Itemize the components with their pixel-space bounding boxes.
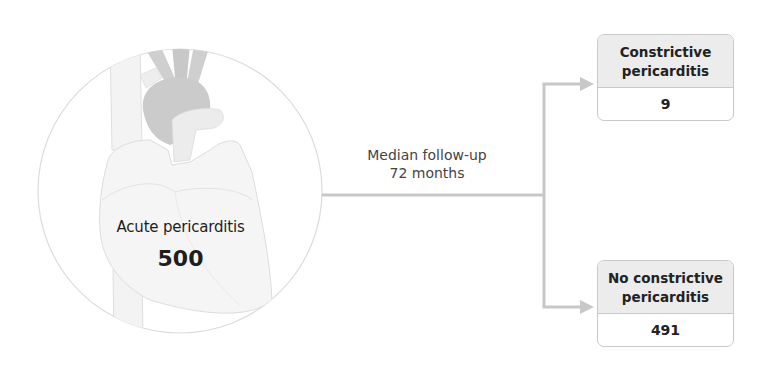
outcome-label-line1: No constrictive bbox=[602, 269, 729, 288]
outcome-box-constrictive: Constrictive pericarditis 9 bbox=[597, 34, 734, 121]
cohort-circle bbox=[38, 40, 322, 340]
arrow-to-no-constrictive-icon bbox=[580, 300, 594, 314]
outcome-label-line2: pericarditis bbox=[602, 288, 729, 307]
cohort-count: 500 bbox=[88, 246, 273, 271]
arrow-to-constrictive-icon bbox=[580, 77, 594, 91]
outcome-label-line1: Constrictive bbox=[602, 43, 729, 62]
outcome-label-line2: pericarditis bbox=[602, 62, 729, 81]
outcome-box-header: Constrictive pericarditis bbox=[598, 35, 733, 88]
outcome-box-header: No constrictive pericarditis bbox=[598, 261, 733, 314]
outcome-count: 9 bbox=[598, 88, 733, 120]
outcome-count: 491 bbox=[598, 314, 733, 346]
outcome-box-no-constrictive: No constrictive pericarditis 491 bbox=[597, 260, 734, 347]
connector-lines bbox=[322, 84, 582, 307]
followup-label-line2: 72 months bbox=[352, 164, 502, 182]
cohort-label: Acute pericarditis bbox=[88, 218, 273, 236]
followup-label-line1: Median follow-up bbox=[352, 146, 502, 164]
followup-label: Median follow-up 72 months bbox=[352, 146, 502, 182]
flow-diagram: Acute pericarditis 500 Median follow-up … bbox=[0, 0, 777, 382]
